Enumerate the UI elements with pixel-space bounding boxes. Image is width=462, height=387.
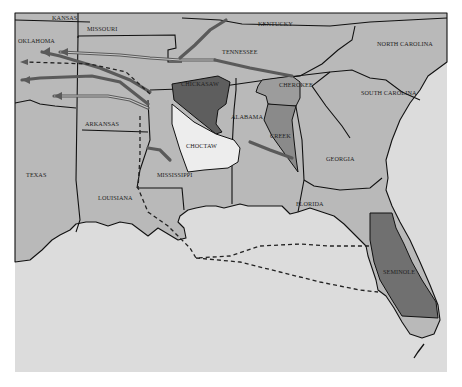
label-south-carolina: SOUTH CAROLINA [361, 89, 417, 96]
label-oklahoma: OKLAHOMA [18, 37, 55, 44]
label-mississippi: MISSISSIPPI [157, 171, 193, 178]
label-missouri: MISSOURI [87, 25, 117, 32]
label-arkansas: ARKANSAS [85, 120, 120, 127]
label-louisiana: LOUISIANA [98, 194, 133, 201]
label-alabama: ALABAMA [231, 113, 263, 120]
label-choctaw: CHOCTAW [186, 142, 217, 149]
label-north-carolina: NORTH CAROLINA [377, 40, 433, 47]
label-chickasaw: CHICKASAW [181, 80, 219, 87]
label-tennessee: TENNESSEE [222, 48, 258, 55]
label-kansas: KANSAS [52, 14, 78, 21]
label-creek: CREEK [270, 132, 291, 139]
label-texas: TEXAS [26, 171, 47, 178]
label-cherokee: CHEROKEE [279, 81, 313, 88]
label-seminole: SEMINOLE [383, 268, 415, 275]
label-georgia: GEORGIA [326, 155, 355, 162]
label-kentucky: KENTUCKY [258, 20, 293, 27]
trail-of-tears-map: KANSAS MISSOURI KENTUCKY OKLAHOMA TENNES… [0, 0, 462, 387]
label-florida: FLORIDA [296, 200, 324, 207]
